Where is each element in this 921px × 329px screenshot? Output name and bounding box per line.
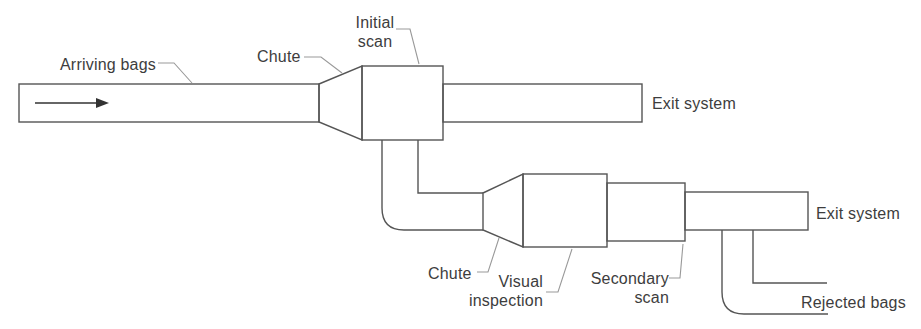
- arrowhead-icon: [96, 98, 109, 108]
- chute-upper-shape: [319, 66, 362, 140]
- elbow-duct-outer: [382, 140, 483, 230]
- chute-lower-shape: [483, 174, 523, 247]
- label-visual-inspection: Visual inspection: [469, 272, 543, 310]
- initial-scan-box: [362, 66, 443, 140]
- leader-initial-scan: [396, 29, 419, 64]
- label-secondary-scan: Secondary scan: [591, 269, 669, 307]
- label-secondary-scan-line1: Secondary: [591, 269, 669, 288]
- leader-chute-upper: [304, 57, 342, 73]
- label-exit-system-lower: Exit system: [816, 204, 900, 223]
- baggage-flow-diagram: Arriving bags Chute Initial scan Exit sy…: [0, 0, 921, 329]
- label-initial-scan-line1: Initial: [356, 13, 395, 32]
- leader-lines: [158, 29, 683, 292]
- label-arriving-bags: Arriving bags: [60, 55, 156, 74]
- leader-arriving-bags: [158, 63, 192, 83]
- label-secondary-scan-line2: scan: [591, 288, 669, 307]
- reject-duct-inner: [753, 230, 827, 283]
- leader-secondary-scan: [669, 244, 683, 278]
- label-rejected-bags: Rejected bags: [801, 293, 906, 312]
- label-chute-upper: Chute: [257, 47, 301, 66]
- elbow-duct-inner: [418, 140, 483, 193]
- label-exit-system-upper: Exit system: [652, 94, 736, 113]
- secondary-scan-box: [607, 183, 685, 241]
- label-initial-scan: Initial scan: [356, 13, 395, 51]
- label-visual-inspection-line1: Visual: [469, 272, 543, 291]
- visual-inspection-box: [523, 174, 607, 247]
- leader-visual-inspection: [546, 249, 572, 292]
- conveyor-exit-upper: [443, 84, 642, 122]
- conveyor-exit-lower: [685, 192, 808, 230]
- label-initial-scan-line2: scan: [356, 32, 395, 51]
- leader-chute-lower: [477, 238, 499, 272]
- label-chute-lower: Chute: [428, 264, 472, 283]
- flow-direction-arrow: [35, 98, 109, 108]
- label-visual-inspection-line2: inspection: [469, 291, 543, 310]
